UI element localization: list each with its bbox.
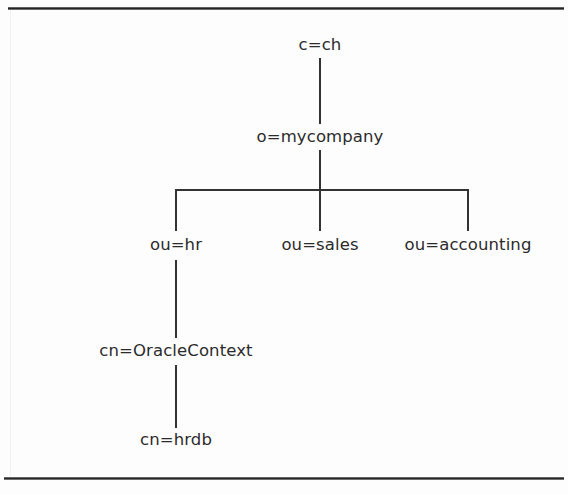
top-page-rule [8, 7, 564, 10]
edge-ou-bus [175, 189, 469, 191]
tree-node-root: c=ch [299, 35, 342, 54]
tree-node-org: o=mycompany [257, 127, 384, 146]
edge-oraclecontext-to-hrdb [175, 365, 177, 428]
tree-node-ou-accounting: ou=accounting [405, 235, 532, 254]
left-page-rule [10, 10, 11, 476]
tree-node-ou-hr: ou=hr [150, 235, 202, 254]
edge-bus-to-hr [175, 189, 177, 231]
edge-bus-to-sales [319, 189, 321, 231]
tree-node-ou-sales: ou=sales [281, 235, 358, 254]
edge-hr-to-oraclecontext [175, 260, 177, 338]
tree-node-oracle-context: cn=OracleContext [99, 341, 252, 360]
edge-bus-to-accounting [467, 189, 469, 231]
edge-root-to-org [319, 58, 321, 124]
tree-node-hrdb: cn=hrdb [140, 430, 212, 449]
bottom-page-rule [4, 477, 564, 480]
figure-canvas: c=ch o=mycompany ou=hr ou=sales ou=accou… [0, 0, 568, 494]
edge-org-to-bus [319, 150, 321, 190]
